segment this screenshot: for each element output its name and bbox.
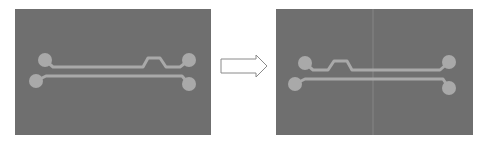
right-arrow-icon [221, 55, 267, 77]
board-before [15, 9, 211, 135]
trace-routing-diagram [0, 0, 485, 146]
pad-bottom-left-icon [288, 77, 302, 91]
board-after [276, 9, 473, 135]
pad-top-left-icon [298, 56, 312, 70]
pad-top-right-icon [442, 55, 456, 69]
panel-before [15, 9, 211, 135]
diagram-stage [0, 0, 485, 146]
panel-after [276, 9, 473, 135]
pad-bottom-right-icon [182, 77, 196, 91]
pad-top-left-icon [38, 53, 52, 67]
pad-bottom-left-icon [29, 74, 43, 88]
pad-bottom-right-icon [442, 81, 456, 95]
pad-top-right-icon [182, 53, 196, 67]
